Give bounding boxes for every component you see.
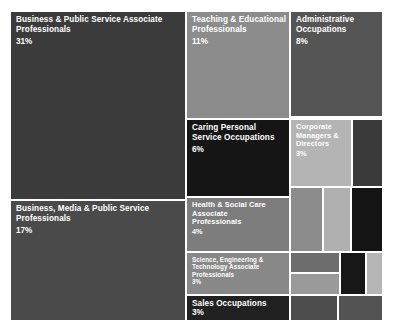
treemap-tile-filler-1[interactable] <box>353 120 382 186</box>
tile-value: 6% <box>192 145 204 155</box>
tile-label: Caring Personal Service Occupations <box>192 123 286 142</box>
treemap-tile-filler-10[interactable] <box>339 296 382 320</box>
treemap-tile-science-engineering-technology-associate-professionals[interactable]: Science, Engineering & Technology Associ… <box>187 253 289 294</box>
treemap-tile-filler-4[interactable] <box>352 188 382 251</box>
tile-value: 8% <box>296 37 308 47</box>
tile-value: 3% <box>192 278 201 285</box>
tile-label: Business, Media & Public Service Profess… <box>16 204 182 223</box>
tile-value: 4% <box>192 228 203 237</box>
tile-label: Teaching & Educational Professionals <box>192 15 286 34</box>
tile-label: Business & Public Service Associate Prof… <box>16 15 182 34</box>
treemap-tile-filler-2[interactable] <box>291 188 322 251</box>
treemap-tile-business-public-service-associate-professionals[interactable]: Business & Public Service Associate Prof… <box>11 12 185 199</box>
treemap-tile-sales-occupations[interactable]: Sales Occupations3% <box>187 296 289 320</box>
tile-label: Administrative Occupations <box>296 15 379 34</box>
tile-value: 11% <box>192 37 208 47</box>
tile-label: Science, Engineering & Technology Associ… <box>192 256 286 278</box>
treemap-tile-filler-6[interactable] <box>291 274 339 294</box>
treemap-tile-business-media-public-service-professionals[interactable]: Business, Media & Public Service Profess… <box>11 201 185 320</box>
tile-label: Health & Social Care Associate Professio… <box>192 201 286 227</box>
tile-label: Corporate Managers & Directors <box>296 123 348 149</box>
tile-value: 3% <box>296 150 307 159</box>
treemap-tile-filler-9[interactable] <box>291 296 337 320</box>
treemap-tile-filler-7[interactable] <box>341 253 365 294</box>
treemap-tile-teaching-educational-professionals[interactable]: Teaching & Educational Professionals11% <box>187 12 289 118</box>
treemap-tile-filler-5[interactable] <box>291 253 339 272</box>
tile-label: Sales Occupations <box>192 299 286 309</box>
treemap-tile-filler-8[interactable] <box>367 253 382 294</box>
treemap-plot-area: Business & Public Service Associate Prof… <box>11 12 382 320</box>
treemap-tile-caring-personal-service-occupations[interactable]: Caring Personal Service Occupations6% <box>187 120 289 196</box>
treemap-tile-administrative-occupations[interactable]: Administrative Occupations8% <box>291 12 382 116</box>
treemap-tile-health-social-care-associate-professionals[interactable]: Health & Social Care Associate Professio… <box>187 198 289 251</box>
tile-value: 3% <box>192 308 204 318</box>
treemap-tile-filler-3[interactable] <box>324 188 350 251</box>
treemap-chart: Business & Public Service Associate Prof… <box>0 0 393 334</box>
treemap-tile-corporate-managers-directors[interactable]: Corporate Managers & Directors3% <box>291 120 351 186</box>
tile-value: 31% <box>16 37 32 47</box>
tile-value: 17% <box>16 226 32 236</box>
